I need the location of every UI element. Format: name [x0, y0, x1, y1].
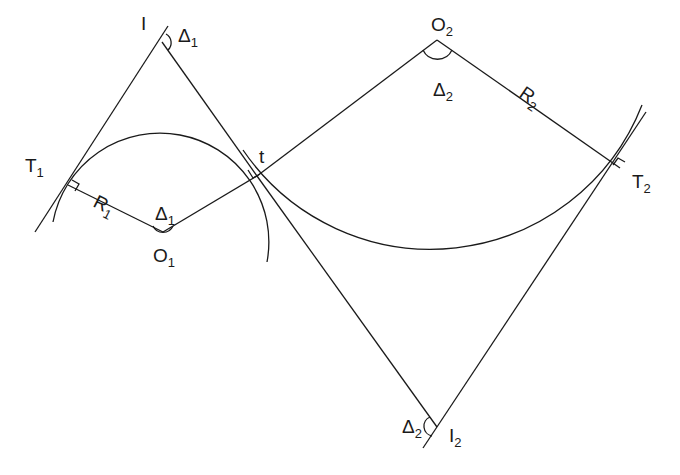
label-i: I: [141, 13, 146, 34]
tangent-line-t2-i2: [423, 112, 646, 448]
label-t: t: [259, 146, 265, 167]
curve-1-arc: [53, 133, 269, 262]
radius-o1-t: [163, 176, 257, 232]
label-delta1-center: Δ1: [155, 203, 175, 228]
radius-o2-t: [257, 40, 437, 176]
tangent-line-t-i2: [257, 176, 437, 427]
angle-arc-delta2-bottom: [424, 417, 432, 436]
reverse-curve-diagram: I Δ1 T1 R1 Δ1 O1 t O2 Δ2 R2 T2 Δ2 I2: [0, 0, 680, 475]
label-r2: R2: [513, 82, 545, 115]
angle-arc-delta2-center: [423, 50, 452, 59]
label-i2: I2: [449, 425, 462, 450]
label-t2: T2: [632, 171, 651, 196]
label-t1: T1: [25, 155, 44, 180]
tangent-line-i-t: [162, 42, 257, 176]
radius-r1-t1: [68, 185, 163, 232]
label-delta1-top: Δ1: [178, 25, 198, 50]
angle-arc-delta1-top: [166, 34, 171, 50]
curve-2-arc: [243, 105, 642, 249]
label-o2: O2: [431, 14, 453, 39]
label-delta2-bottom: Δ2: [402, 416, 422, 441]
label-delta2-center: Δ2: [433, 79, 453, 104]
label-r1: R1: [88, 191, 118, 223]
label-o1: O1: [153, 245, 175, 270]
